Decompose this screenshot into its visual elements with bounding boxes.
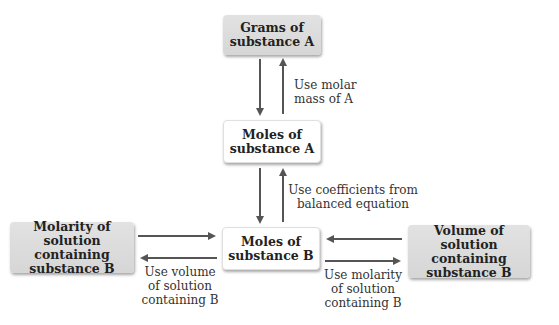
node-grams-of-substance-a: Grams of substance A <box>223 15 321 55</box>
node-molarity-of-solution-b: Molarity of solution containing substanc… <box>10 222 134 273</box>
label-use-molar-mass: Use molar mass of A <box>294 78 374 106</box>
node-volume-of-solution-b: Volume of solution containing substance … <box>408 225 530 278</box>
label-use-coefficients: Use coefficients from balanced equation <box>288 183 418 211</box>
label-use-volume: Use volume of solution containing B <box>140 265 220 307</box>
label-use-molarity: Use molarity of solution containing B <box>318 268 408 310</box>
node-moles-of-substance-b: Moles of substance B <box>222 227 320 270</box>
node-moles-of-substance-a: Moles of substance A <box>223 120 321 163</box>
